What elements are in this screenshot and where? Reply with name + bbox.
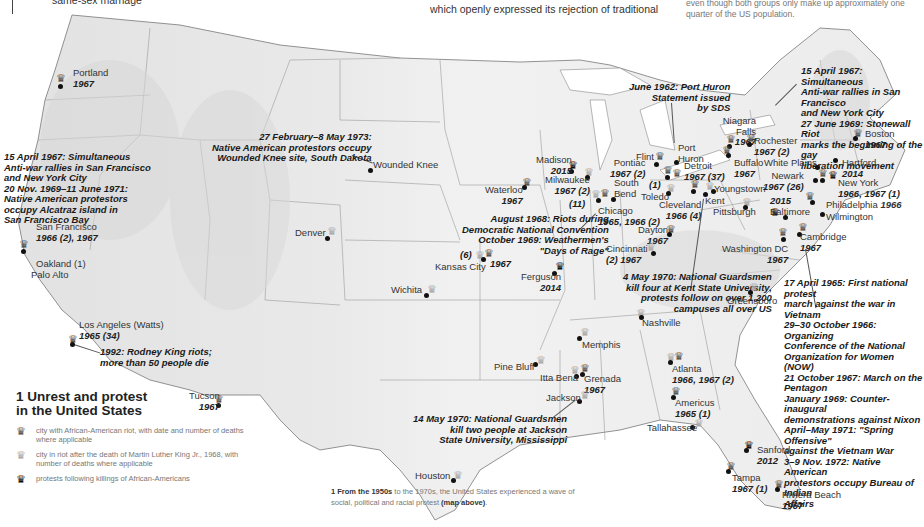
city-label: Milwaukee1967 (2) (545, 175, 590, 196)
city-dot (596, 198, 601, 203)
top-right-fragment: even though both groups only make up app… (686, 0, 905, 20)
city-label: Houston (415, 471, 450, 482)
city-label: New York1966, 1967 (1) (838, 178, 900, 199)
city-label: Jackson (546, 393, 581, 404)
city-label: Buffalo1967 (734, 158, 763, 179)
city-label: Cleveland1966 (4) (659, 200, 701, 221)
city-dot (726, 469, 731, 474)
city-label: Ferguson2014 (521, 272, 561, 293)
crown-dark-icon: ♛ (600, 188, 610, 199)
city-label: Pine Bluff (494, 362, 535, 373)
city-label: Cincinnati(2) 1967 (606, 244, 648, 265)
city-dot (451, 478, 456, 483)
crown-light-icon: ♛ (16, 450, 30, 460)
city-label: Tampa1967 (1) (732, 473, 767, 494)
city-label: Los Angeles (Watts)1965 (34) (79, 320, 164, 341)
legend-title: 1 Unrest and protest in the United State… (16, 390, 246, 418)
note-jackson-state: 14 May 1970: National Guardsmen kill two… (413, 414, 567, 446)
city-dot (833, 158, 838, 163)
top-center-fragment: which openly expressed its rejection of … (430, 3, 658, 15)
city-dot (853, 136, 858, 141)
legend-item-riot: ♛ city with African-American riot, with … (16, 426, 246, 444)
city-label: White Plains (764, 158, 817, 169)
map-legend: 1 Unrest and protest in the United State… (16, 390, 246, 490)
city-dot (781, 237, 786, 242)
caption-lead: 1 From the 1950s (331, 487, 392, 496)
city-dot (522, 185, 527, 190)
legend-text: protests following killings of African-A… (36, 474, 190, 483)
crown-dark-icon: ♛ (674, 351, 684, 362)
city-dot (58, 84, 63, 89)
caption-tail: (map above) (441, 498, 485, 507)
crown-dark-icon: ♛ (56, 73, 66, 84)
city-label: Youngstown (714, 184, 765, 195)
note-detroit-mlk: (1) (649, 180, 661, 191)
note-wounded-knee: 27 February–8 May 1973: Native American … (212, 132, 372, 164)
crown-dark-icon: ♛ (672, 168, 682, 179)
crown-dark-icon: ♛ (16, 426, 30, 436)
note-la-1992: 1992: Rodney King riots; more than 50 pe… (100, 347, 212, 368)
legend-text: city with African-American riot, with da… (36, 426, 246, 444)
note-west-coast: 15 April 1967: Simultaneous Anti-war ral… (4, 152, 151, 226)
city-label: Waterloo1967 (485, 185, 523, 206)
city-label: Washington DC1967 (722, 244, 788, 265)
city-dot (744, 448, 749, 453)
city-dot (70, 342, 75, 347)
city-label: Atlanta1966, 1967 (2) (672, 364, 734, 385)
legend-item-killings: ♛ protests following killings of African… (16, 474, 246, 484)
city-label: Pittsburgh (713, 207, 756, 218)
note-kansas-city-year: 1967 (490, 259, 511, 270)
note-new-york: 15 April 1967: Simultaneous Anti-war ral… (801, 66, 924, 171)
city-label: Nashville (642, 318, 681, 329)
city-label: Tallahassee (647, 423, 697, 434)
city-dot (325, 236, 330, 241)
city-label: Wichita (391, 285, 422, 296)
note-chicago-deaths: (11) (569, 199, 585, 210)
note-washington: 17 April 1965: First national protest ma… (784, 278, 924, 509)
legend-item-mlk: ♛ city in riot after the death of Martin… (16, 450, 246, 468)
city-label: Cambridge1967 (800, 232, 846, 253)
city-label: San Francisco1966 (2), 1967 (36, 222, 98, 243)
city-label: Wilmington (826, 212, 873, 223)
city-label: Memphis (582, 340, 621, 351)
city-dot (726, 153, 731, 158)
city-label: Itta Bena (540, 373, 578, 384)
city-label: Newark1967 (26) (763, 171, 804, 192)
city-label: Philadelphia 1966 (826, 200, 902, 211)
city-dot (747, 142, 752, 147)
city-dot (424, 293, 429, 298)
city-dot (775, 487, 780, 492)
crown-dark-icon: ♛ (655, 151, 665, 162)
city-dot (820, 178, 825, 183)
city-dot (21, 249, 26, 254)
city-dot (691, 189, 696, 194)
city-label: Rochester1967 (2) (754, 136, 797, 157)
top-left-fragment: same-sex marriage (52, 0, 142, 6)
map-caption: 1 From the 1950s to the 1970s, the Unite… (331, 486, 591, 508)
note-kansas-city-deaths: (6) (460, 250, 472, 261)
city-label: Flint (636, 152, 654, 163)
city-label: Hartford2014 (842, 158, 876, 179)
crown-black-icon: ♛ (16, 474, 30, 484)
crown-black-icon: ♛ (828, 170, 838, 181)
city-label: Greensboro (727, 296, 777, 307)
city-dot (654, 162, 659, 167)
top-left-bar (12, 0, 13, 14)
city-dot (651, 251, 656, 256)
city-label: Madison2015 (536, 155, 572, 176)
note-port-huron: June 1962: Port Huron Statement issued b… (629, 82, 730, 114)
city-label-oakland: Oakland (1) (36, 259, 86, 270)
city-dot (820, 212, 825, 217)
city-label: Denver (295, 228, 326, 239)
city-label-palo-alto: Palo Alto (31, 270, 69, 281)
city-label: Americus1965 (1) (675, 398, 715, 419)
city-label: Riviera Beach1967 (782, 490, 841, 511)
city-label: Sanford2012 (757, 445, 790, 466)
city-label: Wounded Knee (373, 160, 438, 171)
city-dot (665, 175, 670, 180)
city-label: Boston1967 (865, 129, 895, 150)
city-label: Kent (705, 196, 725, 207)
city-label: Kansas City (435, 262, 486, 273)
city-label: Portland1967 (73, 68, 108, 89)
city-dot (810, 200, 815, 205)
